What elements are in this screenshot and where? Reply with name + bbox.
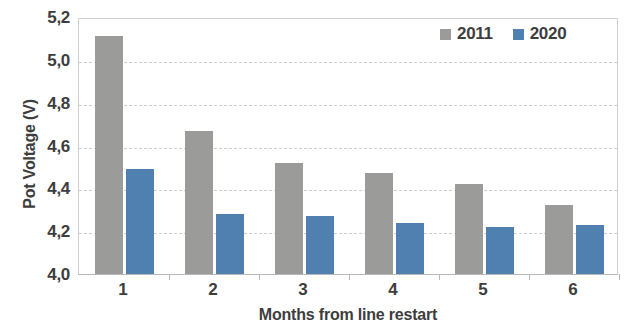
bar-chart: Pot Voltage (V) 5,25,04,84,64,44,24,0 12… xyxy=(0,0,626,336)
legend-item-2011: 2011 xyxy=(440,24,493,44)
bar-group xyxy=(275,19,334,274)
bar-2011-month-3 xyxy=(275,163,303,274)
legend-label: 2011 xyxy=(457,24,493,44)
x-axis-tick-label: 6 xyxy=(543,280,603,300)
x-axis-tick xyxy=(619,274,620,280)
bar-group xyxy=(185,19,244,274)
legend-label: 2020 xyxy=(530,24,567,44)
x-axis-tick-label: 5 xyxy=(453,280,513,300)
bar-2020-month-1 xyxy=(126,169,154,274)
y-axis-tick-label: 4,8 xyxy=(20,94,70,114)
bar-group xyxy=(455,19,514,274)
bar-group xyxy=(365,19,424,274)
bar-2011-month-4 xyxy=(365,173,393,274)
y-axis-tick-label: 4,6 xyxy=(20,137,70,157)
bars-layer xyxy=(79,19,617,274)
legend-swatch-icon xyxy=(440,29,451,40)
y-axis-tick-label: 4,0 xyxy=(20,265,70,285)
bar-2011-month-5 xyxy=(455,184,483,274)
bar-2020-month-3 xyxy=(306,216,334,274)
y-axis-tick-labels: 5,25,04,84,64,44,24,0 xyxy=(20,18,70,275)
bar-2011-month-6 xyxy=(545,205,573,274)
bar-2011-month-1 xyxy=(95,36,123,274)
x-axis-title: Months from line restart xyxy=(78,306,618,324)
bar-2020-month-2 xyxy=(216,214,244,274)
bar-2020-month-4 xyxy=(396,223,424,274)
chart-legend: 20112020 xyxy=(440,24,566,44)
bar-2020-month-6 xyxy=(576,225,604,274)
x-axis-tick-label: 4 xyxy=(363,280,423,300)
bar-group xyxy=(95,19,154,274)
legend-item-2020: 2020 xyxy=(513,24,567,44)
y-axis-tick-label: 5,2 xyxy=(20,8,70,28)
bar-2011-month-2 xyxy=(185,131,213,274)
legend-swatch-icon xyxy=(513,29,524,40)
x-axis-tick-label: 1 xyxy=(93,280,153,300)
y-axis-tick-label: 5,0 xyxy=(20,51,70,71)
y-axis-tick-label: 4,2 xyxy=(20,222,70,242)
plot-area xyxy=(78,18,618,275)
x-axis-tick-label: 3 xyxy=(273,280,333,300)
x-axis-tick-labels: 123456 xyxy=(78,280,618,306)
bar-group xyxy=(545,19,604,274)
x-axis-tick-label: 2 xyxy=(183,280,243,300)
bar-2020-month-5 xyxy=(486,227,514,274)
y-axis-tick-label: 4,4 xyxy=(20,179,70,199)
